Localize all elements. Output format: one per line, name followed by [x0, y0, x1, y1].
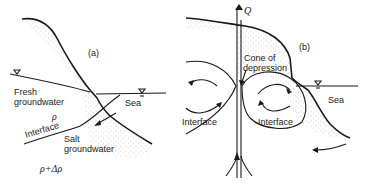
sea-level-a: [96, 93, 166, 94]
sea-label-a: Sea: [125, 98, 141, 108]
flow-arrow-icon: [235, 4, 243, 10]
cone-label-2: depression: [243, 63, 287, 73]
fresh-label-2: groundwater: [14, 97, 64, 107]
land-stipple-a: [22, 19, 152, 158]
flow-arrow-icon: [226, 152, 252, 176]
flow-arrow-icon: [312, 144, 346, 153]
flow-arrow-icon: [186, 80, 222, 113]
panel-a: (a) Fresh groundwater ρ Interface Salt g…: [10, 19, 166, 174]
interface-label-a: Interface: [24, 120, 60, 140]
water-table-triangle-icon: [315, 81, 321, 88]
rho-delta-label: ρ+Δρ: [39, 163, 62, 174]
water-table-triangle-icon: [139, 89, 145, 96]
panel-a-label: (a): [88, 48, 99, 58]
salt-label-1: Salt: [64, 134, 80, 144]
interface-label-right: Interface: [258, 117, 293, 127]
interface-label-left: Interface: [182, 117, 217, 127]
panel-b-label: (b): [299, 42, 310, 52]
panel-b: Q: [182, 4, 358, 178]
salt-label-2: groundwater: [64, 144, 114, 154]
cone-label-1: Cone of: [244, 53, 276, 63]
water-table-triangle-icon: [14, 70, 20, 74]
seawater-intrusion-diagram: (a) Fresh groundwater ρ Interface Salt g…: [0, 0, 367, 184]
q-label: Q: [244, 5, 252, 16]
fresh-label-1: Fresh: [14, 87, 37, 97]
sea-label-b: Sea: [328, 95, 344, 105]
